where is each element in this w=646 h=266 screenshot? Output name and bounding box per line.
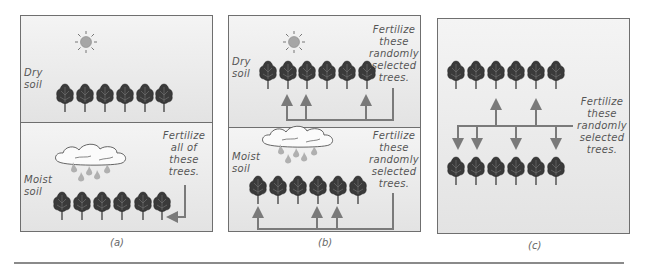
- diagram-graphics: [0, 0, 646, 266]
- arrow-icon: [172, 185, 185, 217]
- panel-b-top-arrows: [287, 88, 393, 120]
- panel-b-dry-trees: [260, 61, 376, 89]
- panel-b-moist-trees: [250, 176, 367, 204]
- panel-c-arrows: [458, 104, 573, 144]
- panel-c-top-trees: [448, 61, 565, 89]
- panel-a-moist-trees: [54, 192, 171, 220]
- sun-icon: [283, 31, 305, 53]
- cloud-rain-icon: [263, 126, 333, 163]
- sun-icon: [75, 31, 97, 53]
- panel-c-bottom-trees: [448, 157, 565, 185]
- cloud-rain-icon: [56, 144, 126, 181]
- bottom-rule: [14, 262, 624, 264]
- panel-a-dry-trees: [57, 84, 173, 112]
